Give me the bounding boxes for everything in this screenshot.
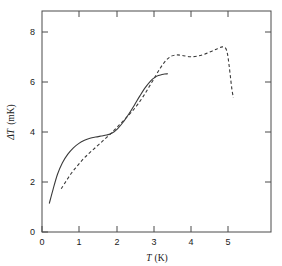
x-axis-title: T(K)	[146, 253, 168, 264]
y-axis-ticks	[42, 32, 271, 232]
x-tick-label-3: 3	[151, 237, 156, 247]
x-tick-label-1: 1	[76, 237, 81, 247]
x-tick-label-5: 5	[225, 237, 230, 247]
y-axis-title-symbol: ΔT	[6, 128, 16, 141]
y-tick-label-6: 6	[30, 77, 35, 87]
figure-panel: 0 1 2 3 4 5 0 2 4 6 8 T(K) ΔT(mK)	[0, 0, 282, 266]
axes-box	[42, 11, 271, 232]
x-axis-title-unit: (K)	[155, 253, 168, 264]
data-series-group	[49, 47, 233, 203]
x-axis-tick-labels: 0 1 2 3 4 5	[39, 237, 230, 247]
x-tick-label-4: 4	[188, 237, 193, 247]
y-tick-label-2: 2	[30, 177, 35, 187]
x-tick-label-0: 0	[39, 237, 44, 247]
x-axis-title-symbol: T	[146, 253, 152, 263]
y-axis-title-unit: (mK)	[6, 104, 17, 125]
x-tick-label-2: 2	[114, 237, 119, 247]
plot-frame	[42, 11, 271, 232]
x-axis-ticks	[42, 11, 228, 232]
y-tick-label-4: 4	[30, 127, 35, 137]
series-solid-curve	[49, 74, 167, 203]
y-axis-tick-labels: 0 2 4 6 8	[30, 27, 35, 237]
y-axis-title: ΔT(mK)	[6, 104, 17, 140]
y-tick-label-8: 8	[30, 27, 35, 37]
chart-canvas: 0 1 2 3 4 5 0 2 4 6 8 T(K) ΔT(mK)	[0, 0, 282, 266]
y-tick-label-0: 0	[30, 227, 35, 237]
series-dashed-curve	[61, 47, 233, 189]
